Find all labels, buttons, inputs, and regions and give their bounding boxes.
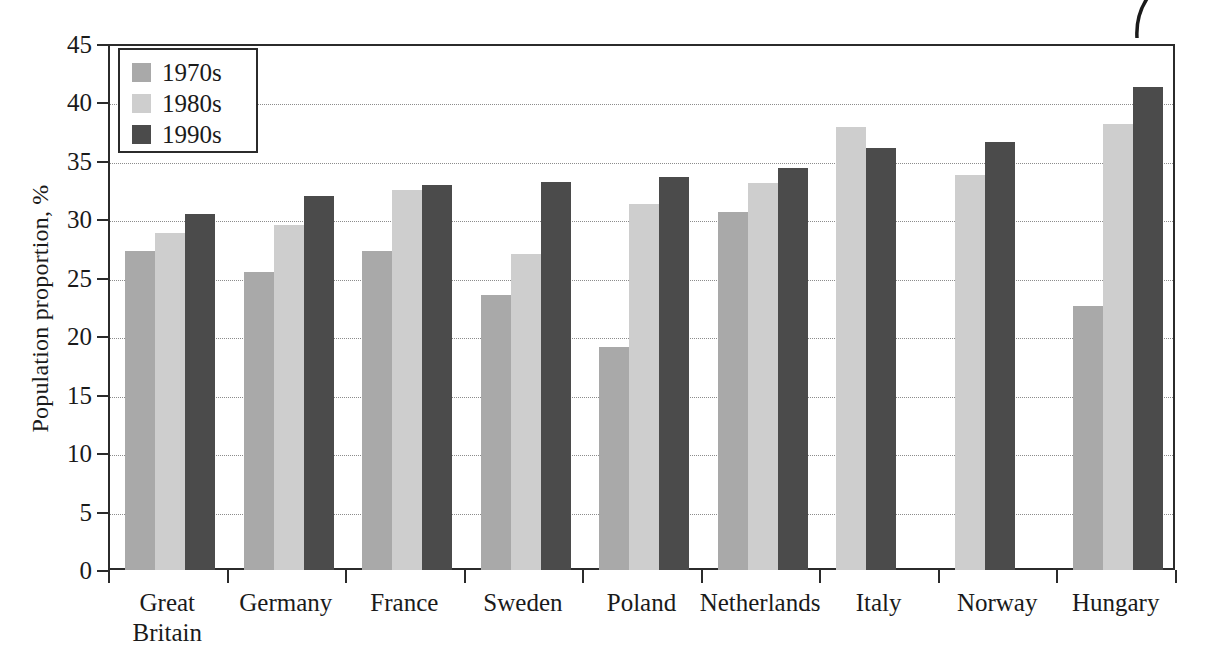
x-label-line: Hungary [1026,588,1206,618]
y-tick-mark [97,278,108,280]
y-tick-label: 20 [32,324,92,349]
bar [659,177,689,570]
bar [1103,124,1133,571]
legend-item[interactable]: 1990s [132,119,256,150]
scan-artifact-arc [1135,0,1209,40]
x-tick-mark [701,570,703,583]
y-tick-mark [97,395,108,397]
y-tick-mark [97,570,108,572]
bar [422,185,452,570]
y-tick-label: 5 [32,500,92,525]
bar [392,190,422,570]
bar [125,251,155,570]
bar [511,254,541,570]
bar [985,142,1015,570]
bar [836,127,866,570]
bar-group [345,44,464,570]
legend-label: 1990s [162,122,222,147]
bar [362,251,392,570]
y-tick-label: 0 [32,558,92,583]
bar [629,204,659,570]
y-tick-label: 10 [32,441,92,466]
bar [304,196,334,570]
x-tick-mark [1056,570,1058,583]
bar [866,148,896,570]
x-tick-mark [227,570,229,583]
bar [599,347,629,570]
y-tick-mark [97,219,108,221]
bar [778,168,808,570]
legend-swatch-icon [132,63,151,82]
bar [274,225,304,570]
legend-item[interactable]: 1970s [132,57,256,88]
bar-group [819,44,938,570]
bar [748,183,778,570]
bar [244,272,274,570]
bar-group [938,44,1057,570]
bar-chart: Population proportion, % 051015202530354… [0,0,1209,665]
legend: 1970s1980s1990s [118,48,258,153]
bar [718,212,748,570]
y-tick-mark [97,161,108,163]
bar-group [1056,44,1175,570]
y-tick-label: 45 [32,32,92,57]
legend-label: 1980s [162,91,222,116]
legend-item[interactable]: 1980s [132,88,256,119]
bar-group [464,44,583,570]
legend-swatch-icon [132,125,151,144]
y-tick-mark [97,102,108,104]
x-tick-mark [108,570,110,583]
x-tick-mark [345,570,347,583]
y-tick-label: 30 [32,207,92,232]
legend-swatch-icon [132,94,151,113]
bar [541,182,571,570]
y-tick-mark [97,336,108,338]
bar-group [582,44,701,570]
bar [185,214,215,571]
bar [155,233,185,570]
x-tick-mark [938,570,940,583]
bars-layer [108,44,1175,570]
y-tick-mark [97,512,108,514]
y-tick-label: 15 [32,383,92,408]
y-tick-label: 35 [32,149,92,174]
bar [481,295,511,570]
x-tick-mark [819,570,821,583]
y-tick-mark [97,453,108,455]
bar [1073,306,1103,570]
y-tick-label: 25 [32,266,92,291]
y-tick-mark [97,44,108,46]
x-axis-label: Hungary [1026,588,1206,618]
bar [1133,87,1163,570]
bar-group [701,44,820,570]
x-tick-mark [1175,570,1177,583]
x-tick-mark [464,570,466,583]
legend-label: 1970s [162,60,222,85]
x-label-line: Britain [77,618,257,648]
y-tick-label: 40 [32,90,92,115]
bar [955,175,985,570]
x-tick-mark [582,570,584,583]
